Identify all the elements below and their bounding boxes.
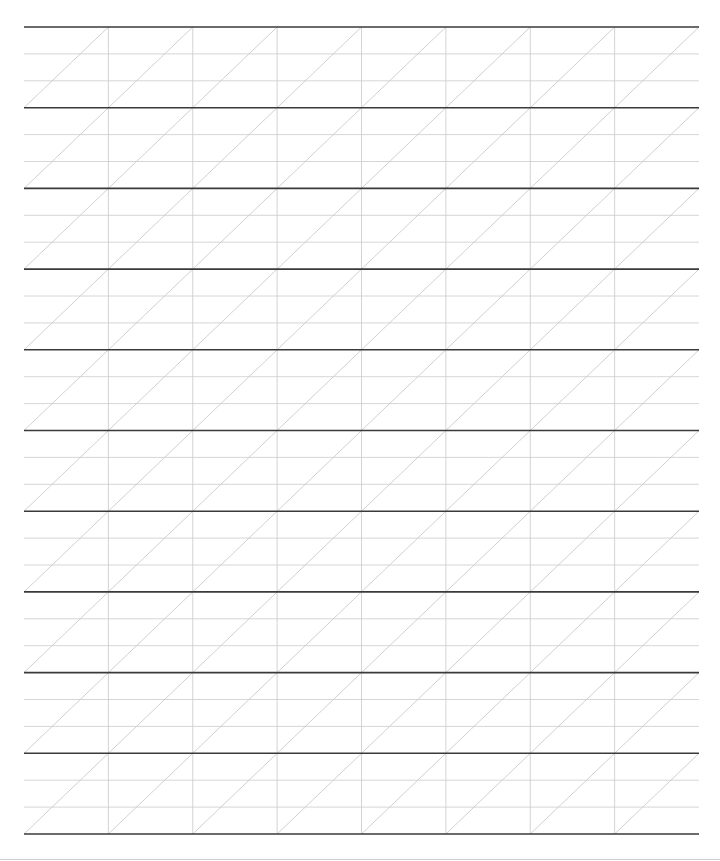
slant-line: [446, 431, 530, 512]
slant-line: [446, 188, 530, 269]
slant-line: [108, 511, 192, 592]
slant-line: [446, 592, 530, 673]
slant-line: [615, 269, 699, 350]
slant-line: [362, 673, 446, 754]
slant-line: [530, 188, 614, 269]
slant-line: [446, 673, 530, 754]
slant-line: [277, 188, 361, 269]
slant-line: [193, 108, 277, 189]
slant-line: [193, 673, 277, 754]
slant-line: [615, 188, 699, 269]
practice-sheet-grid: [0, 0, 720, 861]
slant-line: [277, 269, 361, 350]
slant-line: [615, 27, 699, 108]
slant-line: [362, 27, 446, 108]
slant-line: [193, 27, 277, 108]
slant-line: [24, 108, 108, 189]
slant-line: [530, 511, 614, 592]
slant-line: [615, 350, 699, 431]
slant-line: [530, 673, 614, 754]
slant-line: [277, 511, 361, 592]
slant-line: [362, 592, 446, 673]
slant-line: [24, 188, 108, 269]
slant-line: [362, 753, 446, 834]
slant-line: [193, 350, 277, 431]
slant-line: [108, 108, 192, 189]
slant-line: [362, 269, 446, 350]
slant-line: [615, 753, 699, 834]
slant-line: [446, 108, 530, 189]
slant-line: [277, 350, 361, 431]
slant-line: [446, 269, 530, 350]
slant-line: [362, 511, 446, 592]
slant-line: [277, 673, 361, 754]
slant-line: [193, 592, 277, 673]
slant-line: [108, 269, 192, 350]
slant-line: [193, 511, 277, 592]
page-bottom-border: [0, 859, 720, 860]
slant-line: [446, 753, 530, 834]
slant-line: [362, 108, 446, 189]
slant-line: [615, 511, 699, 592]
slant-line: [615, 431, 699, 512]
slant-line: [446, 350, 530, 431]
slant-line: [193, 431, 277, 512]
slant-line: [615, 673, 699, 754]
slant-line: [193, 269, 277, 350]
slant-line: [108, 350, 192, 431]
slant-line: [530, 350, 614, 431]
slant-line: [530, 108, 614, 189]
slant-line: [530, 27, 614, 108]
slant-line: [193, 753, 277, 834]
slant-line: [277, 431, 361, 512]
slant-line: [277, 108, 361, 189]
slant-line: [24, 27, 108, 108]
slant-line: [362, 188, 446, 269]
slant-line: [108, 592, 192, 673]
slant-line: [446, 511, 530, 592]
slant-line: [24, 753, 108, 834]
slant-line: [108, 27, 192, 108]
slant-line: [24, 431, 108, 512]
slant-line: [108, 188, 192, 269]
slant-line: [530, 431, 614, 512]
slant-line: [108, 753, 192, 834]
slant-line: [193, 188, 277, 269]
slant-line: [615, 108, 699, 189]
slant-line: [24, 592, 108, 673]
slant-line: [108, 673, 192, 754]
slant-line: [277, 27, 361, 108]
slant-line: [24, 269, 108, 350]
slant-line: [277, 592, 361, 673]
slant-line: [362, 350, 446, 431]
slant-line: [530, 592, 614, 673]
slant-line: [108, 431, 192, 512]
slant-line: [530, 269, 614, 350]
slant-line: [615, 592, 699, 673]
slant-line: [362, 431, 446, 512]
slant-line: [277, 753, 361, 834]
slant-line: [24, 673, 108, 754]
slant-line: [24, 511, 108, 592]
slant-line: [446, 27, 530, 108]
slant-line: [24, 350, 108, 431]
slant-line: [530, 753, 614, 834]
